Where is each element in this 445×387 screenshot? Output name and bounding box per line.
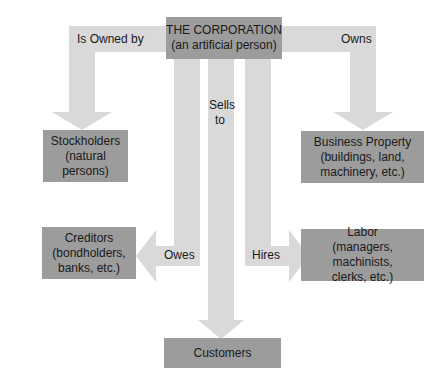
owns-label: Owns [341, 32, 372, 47]
creditors-detail-1: (bondholders, [52, 246, 125, 261]
corporation-box: THE CORPORATION (an artificial person) [166, 17, 282, 59]
labor-box: Labor (managers, machinists, clerks, etc… [301, 229, 424, 281]
business-property-detail-2: machinery, etc.) [314, 165, 411, 180]
stockholders-detail-2: persons) [51, 164, 120, 179]
stockholders-box: Stockholders (natural persons) [43, 130, 128, 182]
labor-detail-2: clerks, etc.) [301, 270, 424, 285]
sells-label: Sells [209, 98, 235, 113]
stockholders-detail-1: (natural [51, 149, 120, 164]
creditors-detail-2: banks, etc.) [52, 261, 125, 276]
to-label: to [215, 113, 225, 128]
stockholders-title: Stockholders [51, 134, 120, 149]
corporation-subtitle: (an artificial person) [166, 38, 282, 53]
business-property-title: Business Property [314, 135, 411, 150]
is-owned-by-label: Is Owned by [77, 32, 144, 47]
corporation-title: THE CORPORATION [166, 23, 282, 38]
hires-label: Hires [252, 248, 280, 263]
creditors-box: Creditors (bondholders, banks, etc.) [42, 227, 136, 279]
business-property-box: Business Property (buildings, land, mach… [301, 131, 424, 183]
business-property-detail-1: (buildings, land, [314, 150, 411, 165]
owns-arrow [280, 26, 393, 130]
owes-label: Owes [164, 248, 195, 263]
customers-title: Customers [193, 346, 251, 361]
labor-title: Labor [301, 225, 424, 240]
customers-box: Customers [164, 338, 281, 368]
creditors-title: Creditors [52, 231, 125, 246]
labor-detail-1: (managers, machinists, [301, 240, 424, 270]
